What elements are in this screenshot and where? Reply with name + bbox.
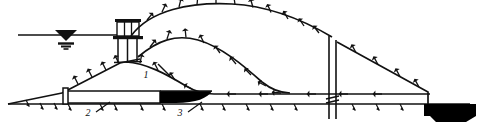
- water-level-symbol: [55, 30, 77, 49]
- outer-embankment-crest: [131, 0, 332, 37]
- core-filter-wedge-black: [160, 91, 212, 103]
- upstream-slope: [62, 54, 140, 93]
- callout-label-2: 2: [86, 107, 91, 118]
- inner-downstream-slope: [138, 28, 290, 97]
- section-break-line: [326, 36, 339, 119]
- drainage-blanket-white: [64, 91, 160, 103]
- diagram-canvas: 1 2 3: [0, 0, 490, 130]
- dam-cross-section-figure: 1 2 3: [0, 0, 490, 130]
- callout-label-1: 1: [144, 69, 149, 80]
- upstream-toe-wall: [63, 88, 68, 104]
- outlet-block: [424, 104, 476, 122]
- callout-label-3: 3: [177, 107, 183, 118]
